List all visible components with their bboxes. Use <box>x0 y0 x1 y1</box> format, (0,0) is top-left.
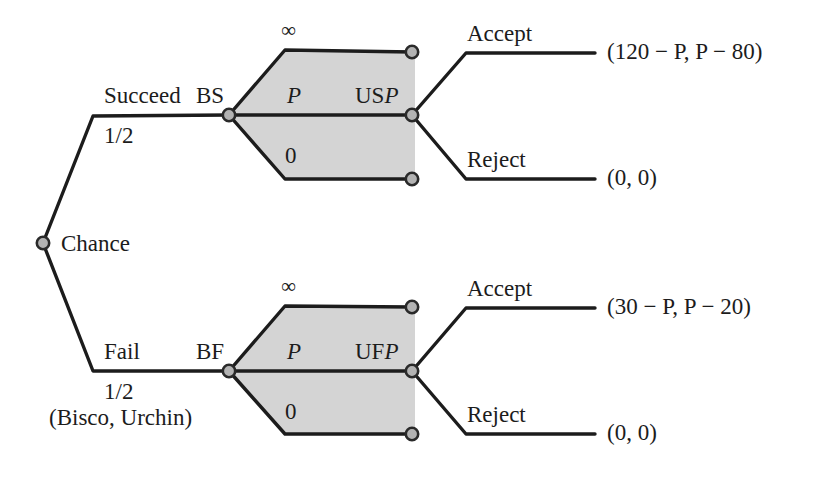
edge-label-fail-reject: Reject <box>467 403 526 426</box>
edge-label-fail: Fail <box>104 340 140 363</box>
node-ufp <box>406 365 418 377</box>
edge-succeed <box>43 115 229 243</box>
game-tree-diagram: Chance (Bisco, Urchin) Succeed 1/2 BS ∞ … <box>0 0 826 480</box>
info-set-label-ufp: UFP <box>355 340 398 363</box>
edge-label-succeed-reject: Reject <box>467 148 526 171</box>
edge-succeed-accept <box>412 53 595 115</box>
info-set-label-usp-var: P <box>384 83 398 108</box>
continuum-label-fail-bottom: 0 <box>285 400 297 423</box>
node-bs <box>223 109 235 121</box>
edge-probability-succeed: 1/2 <box>104 124 133 147</box>
payoff-succeed-reject: (0, 0) <box>607 166 657 189</box>
payoff-fail-reject: (0, 0) <box>607 421 657 444</box>
players-label: (Bisco, Urchin) <box>49 406 192 429</box>
node-fail-continuum-top <box>406 301 418 313</box>
payoff-fail-accept: (30 − P, P − 20) <box>607 295 751 318</box>
node-succeed-continuum-bottom <box>406 173 418 185</box>
node-succeed-continuum-top <box>406 46 418 58</box>
info-set-label-ufp-var: P <box>384 339 398 364</box>
node-label-chance: Chance <box>61 232 130 255</box>
edge-label-succeed: Succeed <box>104 84 181 107</box>
node-label-bs: BS <box>196 84 224 107</box>
continuum-label-succeed-bottom: 0 <box>285 144 297 167</box>
info-set-label-ufp-prefix: UF <box>355 339 384 364</box>
node-label-bf: BF <box>196 340 224 363</box>
node-usp <box>406 109 418 121</box>
info-set-label-usp-prefix: US <box>355 83 384 108</box>
continuum-label-fail-mid: P <box>287 340 301 363</box>
edge-label-fail-accept: Accept <box>467 277 532 300</box>
node-bf <box>223 365 235 377</box>
node-fail-continuum-bottom <box>406 428 418 440</box>
node-chance <box>37 237 49 249</box>
edge-fail-accept <box>412 308 595 371</box>
payoff-succeed-accept: (120 − P, P − 80) <box>607 40 762 63</box>
continuum-label-succeed-top: ∞ <box>281 20 296 41</box>
edge-probability-fail: 1/2 <box>104 380 133 403</box>
info-set-label-usp: USP <box>355 84 398 107</box>
edge-label-succeed-accept: Accept <box>467 22 532 45</box>
continuum-label-fail-top: ∞ <box>281 276 296 297</box>
continuum-label-succeed-mid: P <box>287 84 301 107</box>
